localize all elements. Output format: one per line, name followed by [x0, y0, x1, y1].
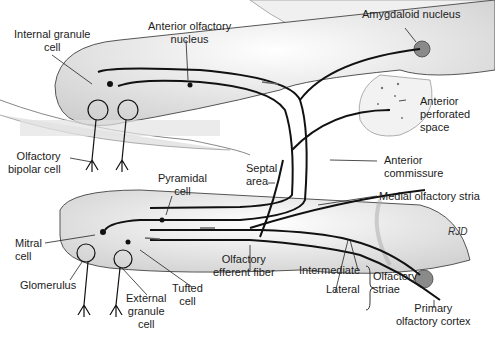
label-internal-granule-cell: Internal granule cell	[14, 28, 90, 54]
label-line: cell	[14, 41, 90, 54]
label-line: External	[126, 292, 166, 305]
label-pyramidal-cell: Pyramidal cell	[158, 172, 207, 198]
label-line: Anterior	[420, 95, 470, 108]
label-line: Septal	[246, 162, 277, 175]
label-anterior-commissure: Anterior commissure	[384, 154, 443, 180]
label-line: Internal granule	[14, 28, 90, 41]
artist-signature: RJD	[448, 226, 467, 237]
label-line: striae	[373, 283, 417, 296]
label-line: Anterior olfactory	[148, 20, 231, 33]
label-line: commissure	[384, 167, 443, 180]
label-glomerulus: Glomerulus	[20, 279, 76, 292]
label-line: cell	[126, 318, 166, 331]
label-line: area	[246, 175, 277, 188]
label-septal-area: Septal area	[246, 162, 277, 188]
label-amygdaloid-nucleus: Amygdaloid nucleus	[362, 8, 460, 21]
label-tufted-cell: Tufted cell	[172, 282, 203, 308]
label-line: perforated	[420, 108, 470, 121]
label-line: Primary	[396, 302, 471, 315]
label-line: Tufted	[172, 282, 203, 295]
label-line: Anterior	[384, 154, 443, 167]
label-medial-olfactory-stria: Medial olfactory stria	[379, 190, 480, 203]
label-mitral-cell: Mitral cell	[15, 237, 42, 263]
label-anterior-perforated-space: Anterior perforated space	[420, 95, 470, 134]
label-line: Olfactory	[213, 253, 275, 266]
label-line: cell	[15, 250, 42, 263]
label-line: efferent fiber	[213, 266, 275, 279]
label-external-granule-cell: External granule cell	[126, 292, 166, 331]
label-line: olfactory cortex	[396, 315, 471, 328]
label-intermediate: Intermediate	[299, 264, 360, 277]
label-line: space	[420, 121, 470, 134]
label-olfactory-striae: Olfactory striae	[373, 270, 417, 296]
label-line: nucleus	[148, 33, 231, 46]
label-line: cell	[158, 185, 207, 198]
label-line: Olfactory	[373, 270, 417, 283]
label-line: bipolar cell	[8, 163, 61, 176]
label-olfactory-efferent-fiber: Olfactory efferent fiber	[213, 253, 275, 279]
label-line: granule	[126, 305, 166, 318]
label-lateral: Lateral	[326, 283, 360, 296]
label-line: Mitral	[15, 237, 42, 250]
label-olfactory-bipolar-cell: Olfactory bipolar cell	[8, 150, 61, 176]
label-anterior-olfactory-nucleus: Anterior olfactory nucleus	[148, 20, 231, 46]
label-primary-olfactory-cortex: Primary olfactory cortex	[396, 302, 471, 328]
label-line: Olfactory	[8, 150, 61, 163]
label-line: cell	[172, 295, 203, 308]
label-line: Pyramidal	[158, 172, 207, 185]
